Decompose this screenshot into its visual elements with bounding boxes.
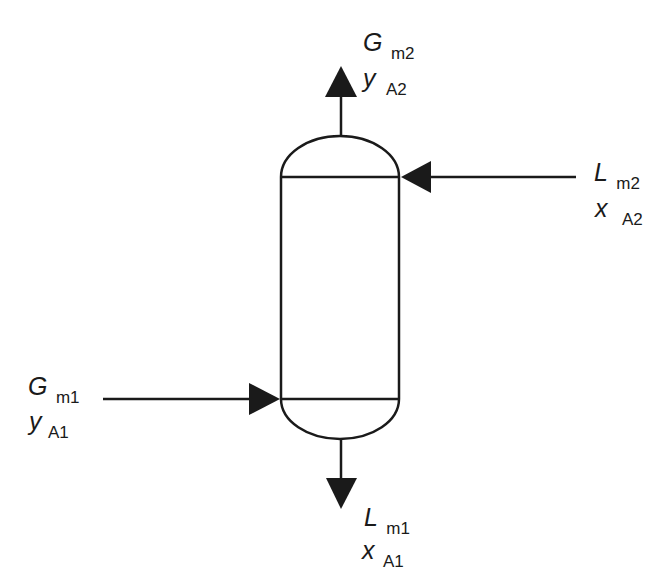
liquid-in-symbol: L [594,158,608,186]
liquid-in-fraction-symbol: x [595,194,608,222]
liquid-in-fraction-subscript: A2 [622,210,643,229]
gas-in-label: G m1 [28,372,76,401]
gas-out-label: G m2 [363,28,411,57]
gas-in-fraction-subscript: A1 [48,423,69,442]
gas-in-fraction: y A1 [29,407,67,436]
liquid-in-subscript: m2 [616,174,640,193]
liquid-in-label: L m2 [594,158,636,187]
arrow-up-icon [325,66,357,97]
liquid-out-fraction-symbol: x [362,536,375,564]
gas-out-fraction: y A2 [363,64,401,93]
gas-in-fraction-symbol: y [29,407,42,435]
liquid-out-label: L m1 [364,503,406,532]
gas-out-subscript: m2 [391,44,415,63]
gas-in-symbol: G [28,372,47,400]
gas-out-symbol: G [363,28,382,56]
gas-in-subscript: m1 [56,388,80,407]
liquid-out-fraction-subscript: A1 [383,552,404,571]
top-dome [281,136,399,177]
liquid-out-symbol: L [364,503,378,531]
arrow-right-icon [249,383,280,415]
liquid-out-fraction: x A1 [362,536,400,565]
arrow-left-icon [401,161,431,193]
gas-out-fraction-symbol: y [363,64,376,92]
gas-out-fraction-subscript: A2 [386,80,407,99]
bottom-dome [281,399,399,439]
liquid-in-fraction: x A2 [595,194,633,223]
arrow-down-icon [326,478,357,509]
column-diagram [0,0,669,582]
